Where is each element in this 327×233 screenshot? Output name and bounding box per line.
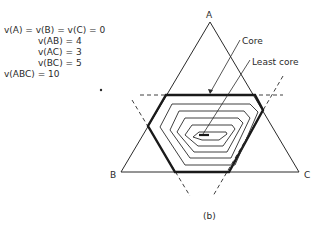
vertex-label-a: A xyxy=(206,10,213,20)
least-core-label: Least core xyxy=(252,57,299,67)
vertex-label-b: B xyxy=(110,170,116,180)
core-label: Core xyxy=(242,36,263,46)
core-diagram: A B C Core Least core (b) xyxy=(0,0,327,233)
vertex-label-c: C xyxy=(304,170,310,180)
simplex-triangle xyxy=(121,22,299,172)
dot xyxy=(100,89,102,91)
figure-caption: (b) xyxy=(203,211,216,221)
core-hexagon xyxy=(148,95,263,172)
